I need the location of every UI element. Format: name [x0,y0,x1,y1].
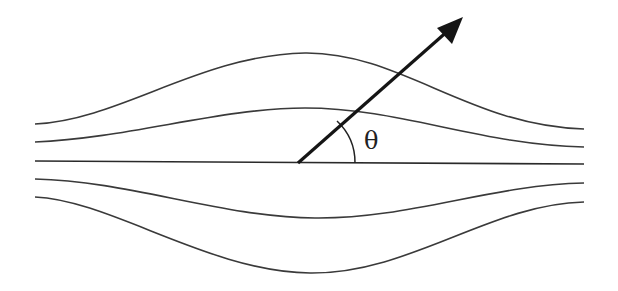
streamline-top-outer [35,53,584,129]
diagram-canvas: θ [0,0,618,291]
angle-label: θ [364,127,378,155]
streamline-diagram [0,0,618,291]
streamline-bottom-inner [35,179,584,218]
streamline-bottom-outer [35,197,584,273]
arrowhead-icon [437,17,463,44]
streamline-center [35,161,584,164]
